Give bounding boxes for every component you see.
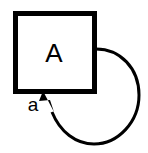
state-label: A: [45, 38, 63, 68]
transition-arrowhead-icon: [39, 91, 54, 112]
self-loop-state-diagram: A a: [0, 0, 148, 153]
transition-label: a: [28, 94, 39, 115]
diagram-canvas: A a: [0, 0, 148, 153]
